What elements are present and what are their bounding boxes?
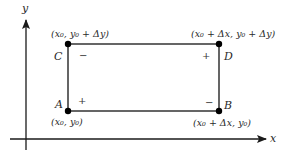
point-d-coord: (x₀ + Δx, y₀ + Δy) <box>191 28 276 39</box>
point-b-coord: (x₀ + Δx, y₀) <box>193 117 251 128</box>
sign-near-d: + <box>202 50 210 61</box>
point-a-coord: (x₀, y₀) <box>51 116 83 127</box>
point-b-label: B <box>223 99 232 112</box>
x-axis-label: x <box>270 132 277 145</box>
point-c-dot <box>65 41 71 47</box>
sign-near-a: + <box>78 95 86 106</box>
rectangle-diagram: x y C D A B (x₀, y₀ + Δy) (x₀ + Δx, y₀ +… <box>0 0 281 153</box>
sign-near-b: − <box>205 97 213 108</box>
rectangle-abdc <box>68 44 219 111</box>
point-d-dot <box>216 41 222 47</box>
point-b-dot <box>216 108 222 114</box>
point-c-coord: (x₀, y₀ + Δy) <box>51 28 109 39</box>
sign-near-c: − <box>79 50 87 61</box>
point-d-label: D <box>223 50 233 63</box>
point-a-label: A <box>54 98 63 111</box>
point-a-dot <box>65 108 71 114</box>
point-c-label: C <box>54 50 63 63</box>
y-axis-label: y <box>21 2 29 15</box>
